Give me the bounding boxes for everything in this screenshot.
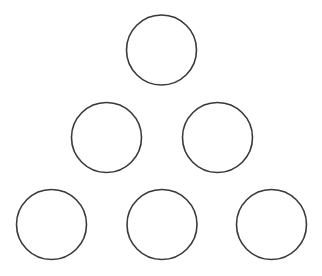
circle-row3-right [237,190,307,260]
circle-row2-right [183,103,253,173]
circle-row3-center [127,190,197,260]
circle-row2-left [72,103,142,173]
circle-triangle-diagram [0,0,322,276]
circle-row1-center [127,15,197,85]
circle-row3-left [17,190,87,260]
